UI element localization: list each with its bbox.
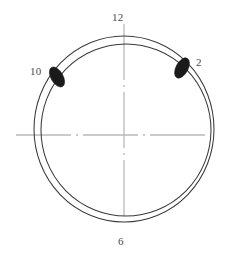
clock-label-10: 10 [30, 66, 41, 77]
roundness-diagram: 12 2 6 10 [0, 0, 242, 259]
clock-label-2: 2 [196, 57, 202, 68]
clock-label-12: 12 [112, 12, 123, 23]
clock-label-6: 6 [118, 236, 124, 247]
defect-marks [46, 55, 192, 89]
diagram-canvas [0, 0, 242, 259]
